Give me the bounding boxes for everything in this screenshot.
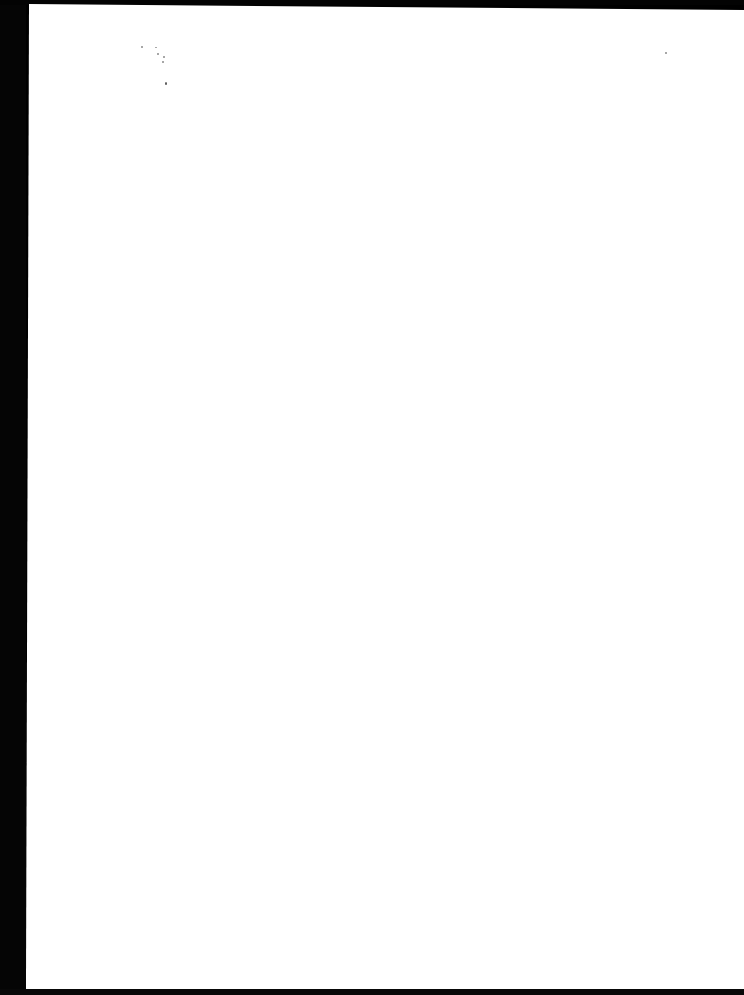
scan-speck — [157, 53, 159, 55]
scan-speck — [141, 46, 143, 48]
scan-speck — [665, 52, 667, 54]
scanner-bottom-edge — [0, 989, 744, 995]
scanner-left-edge — [0, 0, 26, 995]
scan-speck — [162, 61, 164, 63]
blank-page — [26, 4, 744, 989]
scan-speck — [165, 82, 167, 85]
scanner-top-edge — [0, 0, 744, 5]
scan-speck — [155, 47, 157, 48]
scan-speck — [163, 56, 165, 58]
